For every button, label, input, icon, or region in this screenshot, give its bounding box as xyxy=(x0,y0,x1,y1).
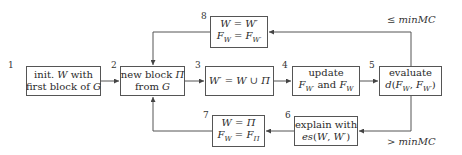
node-7-reset: W = Π FW = FΠ xyxy=(212,115,265,147)
node-7-number: 7 xyxy=(203,110,209,120)
node-6-explain: explain with es(W, W′) xyxy=(294,116,358,146)
node-2-line-2: from G xyxy=(135,81,170,93)
node-2-number: 2 xyxy=(111,60,117,70)
node-3-number: 3 xyxy=(195,60,201,70)
node-1-number: 1 xyxy=(8,60,14,70)
node-5-line-2: d(FW, FW′) xyxy=(385,79,435,95)
node-2-line-1: new block Π xyxy=(121,69,184,81)
flowchart-diagram: 1 init. W with first block of G 2 new bl… xyxy=(0,0,462,155)
node-5-number: 5 xyxy=(369,60,375,70)
node-8-number: 8 xyxy=(201,11,207,21)
node-5-line-1: evaluate xyxy=(389,67,432,79)
node-7-line-2: FW = FΠ xyxy=(218,129,260,145)
node-4-number: 4 xyxy=(282,60,288,70)
node-1-line-2: first block of G xyxy=(26,81,101,93)
node-8-line-2: FW = FW′ xyxy=(217,30,262,46)
node-1-init-w: init. W with first block of G xyxy=(26,66,101,96)
node-2-new-block: new block Π from G xyxy=(120,66,185,96)
node-4-line-1: update xyxy=(308,67,343,79)
node-7-line-1: W = Π xyxy=(222,117,256,129)
condition-le-minmc: ≤ minMC xyxy=(387,14,436,26)
node-6-line-2: es(W, W′) xyxy=(302,131,350,143)
node-8-accept: W = W′ FW = FW′ xyxy=(210,16,268,48)
node-4-line-2: FW′ and FW xyxy=(298,79,353,95)
node-6-number: 6 xyxy=(285,110,291,120)
edge-5-8 xyxy=(269,32,411,66)
node-3-union: W′ = W ∪ Π xyxy=(205,66,274,96)
node-8-line-1: W = W′ xyxy=(220,18,258,30)
edge-5-6 xyxy=(359,96,411,131)
condition-gt-minmc: > minMC xyxy=(387,136,436,148)
node-6-line-1: explain with xyxy=(295,119,357,131)
edge-8-2 xyxy=(153,32,210,65)
node-4-update: update FW′ and FW xyxy=(292,66,360,96)
node-1-line-1: init. W with xyxy=(34,69,93,81)
node-3-line-1: W′ = W ∪ Π xyxy=(209,75,270,87)
node-5-evaluate: evaluate d(FW, FW′) xyxy=(379,66,442,96)
